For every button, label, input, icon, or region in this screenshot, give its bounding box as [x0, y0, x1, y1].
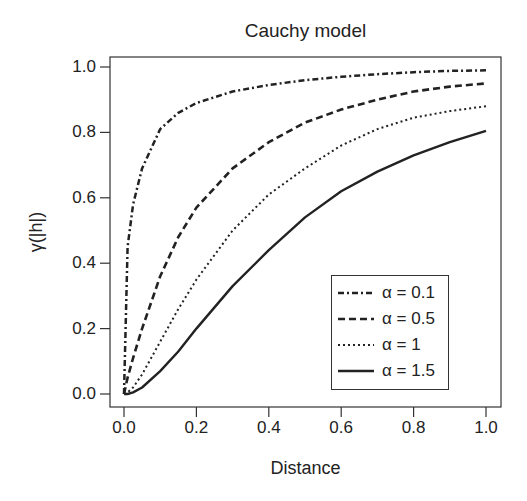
- y-tick-label: 0.2: [46, 319, 96, 339]
- dashdot-line-icon: [338, 288, 374, 298]
- y-tick-label: 0.6: [46, 188, 96, 208]
- y-axis-ticks: [100, 67, 110, 394]
- legend-item: α = 0.5: [338, 307, 435, 331]
- legend-label: α = 1: [382, 335, 421, 355]
- legend-item: α = 0.1: [338, 281, 435, 305]
- x-tick-label: 0.8: [389, 418, 439, 438]
- solid-line-icon: [338, 366, 374, 376]
- x-axis-ticks: [124, 407, 486, 417]
- legend-label: α = 0.1: [382, 283, 435, 303]
- x-axis-label: Distance: [110, 458, 501, 479]
- chart-title: Cauchy model: [110, 20, 501, 42]
- y-tick-label: 1.0: [46, 57, 96, 77]
- legend: α = 0.1 α = 0.5 α = 1 α = 1.5: [331, 275, 449, 390]
- x-tick-label: 0.2: [171, 418, 221, 438]
- legend-item: α = 1: [338, 333, 421, 357]
- y-tick-label: 0.8: [46, 122, 96, 142]
- y-tick-label: 0.4: [46, 253, 96, 273]
- x-tick-label: 0.0: [99, 418, 149, 438]
- legend-label: α = 1.5: [382, 361, 435, 381]
- y-tick-label: 0.0: [46, 384, 96, 404]
- x-tick-label: 0.4: [244, 418, 294, 438]
- dotted-line-icon: [338, 340, 374, 350]
- x-tick-label: 1.0: [461, 418, 511, 438]
- y-axis-label-text: γ(|h|): [26, 212, 47, 252]
- legend-item: α = 1.5: [338, 359, 435, 383]
- legend-label: α = 0.5: [382, 309, 435, 329]
- x-tick-label: 0.6: [316, 418, 366, 438]
- dashed-line-icon: [338, 314, 374, 324]
